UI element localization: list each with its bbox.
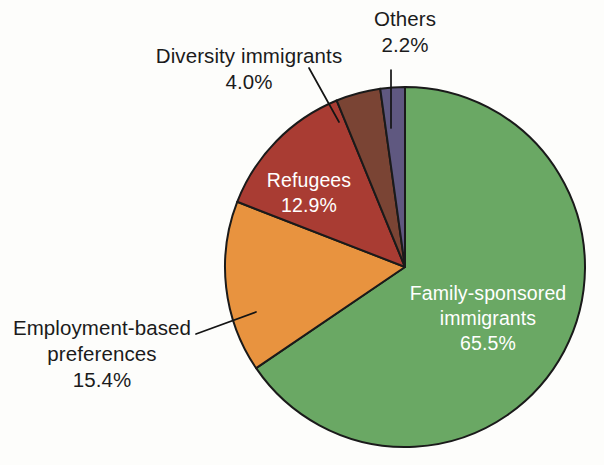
pie-label-others-name: Others: [335, 6, 475, 32]
pie-label-employment-based-preferences-name-line1: Employment-based: [2, 315, 202, 341]
pie-label-refugees-name: Refugees: [239, 168, 379, 193]
pie-label-family-sponsored-immigrants-name-line1: Family-sponsored: [393, 281, 583, 306]
pie-label-family-sponsored-immigrants-name-line2: immigrants: [393, 306, 583, 331]
pie-label-diversity-immigrants-percent: 4.0%: [124, 69, 374, 95]
pie-label-employment-based-preferences: Employment-based preferences 15.4%: [2, 315, 202, 392]
pie-label-refugees-percent: 12.9%: [239, 193, 379, 218]
pie-chart-figure: Others 2.2% Diversity immigrants 4.0% Re…: [0, 0, 604, 465]
pie-label-refugees: Refugees 12.9%: [239, 168, 379, 218]
pie-label-diversity-immigrants: Diversity immigrants 4.0%: [124, 43, 374, 95]
pie-label-employment-based-preferences-percent: 15.4%: [2, 367, 202, 393]
pie-slices-group: [225, 87, 585, 447]
pie-label-employment-based-preferences-name-line2: preferences: [2, 341, 202, 367]
pie-label-diversity-immigrants-name: Diversity immigrants: [124, 43, 374, 69]
pie-label-family-sponsored-immigrants: Family-sponsored immigrants 65.5%: [393, 281, 583, 356]
pie-label-family-sponsored-immigrants-percent: 65.5%: [393, 331, 583, 356]
